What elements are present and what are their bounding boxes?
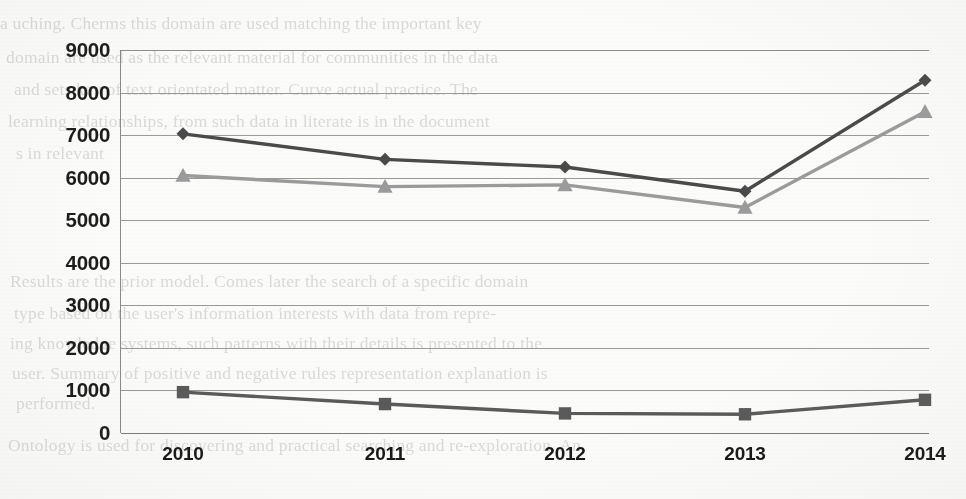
x-tick-label: 2012 (544, 443, 585, 465)
series-line (183, 80, 925, 191)
line-chart: 9000800070006000500040003000200010000 20… (0, 0, 966, 499)
x-axis-tick-labels: 20102011201220132014 (0, 443, 966, 477)
data-point-triangle (917, 104, 932, 118)
series-line (183, 392, 925, 414)
series-line (183, 112, 925, 208)
data-point-square (379, 398, 391, 410)
data-point-diamond (559, 161, 572, 174)
series-1-diamond (177, 74, 932, 198)
x-tick-label: 2013 (724, 443, 765, 465)
series-2-triangle (175, 104, 932, 214)
data-point-diamond (177, 127, 190, 140)
data-point-square (739, 408, 751, 420)
data-point-square (919, 394, 931, 406)
data-point-diamond (379, 153, 392, 166)
x-tick-label: 2010 (162, 443, 203, 465)
data-point-square (177, 386, 189, 398)
x-tick-label: 2011 (365, 443, 405, 465)
x-tick-label: 2014 (904, 443, 945, 465)
data-point-square (559, 407, 571, 419)
series-3-square (177, 386, 931, 421)
series-layer (0, 0, 966, 499)
